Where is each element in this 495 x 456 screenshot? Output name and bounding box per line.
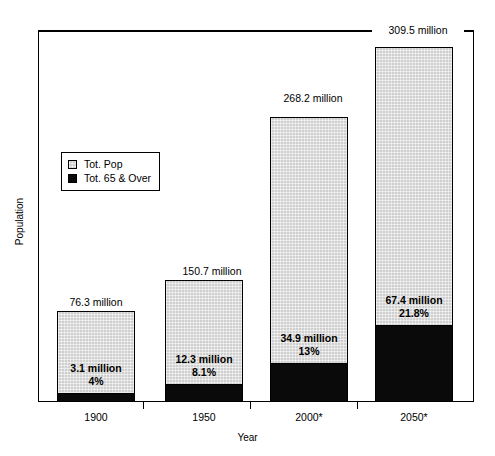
x-axis-label-1950: 1950 [159, 411, 249, 423]
bar-inner-value-2050: 67.4 million [376, 294, 452, 307]
bar-total-2000[interactable]: 34.9 million 13% [270, 117, 348, 402]
bar-inner-value-1950: 12.3 million [166, 353, 242, 366]
bar-inner-label-2000: 34.9 million 13% [271, 332, 347, 358]
bar-inner-percent-2000: 13% [271, 345, 347, 358]
bar-group-1950: 12.3 million 8.1% [165, 280, 243, 402]
bar-total-2050[interactable]: 67.4 million 21.8% [375, 47, 453, 402]
chart-legend: Tot. Pop Tot. 65 & Over [61, 152, 160, 191]
bar-group-2000: 34.9 million 13% [270, 117, 348, 402]
bar-inner-value-1900: 3.1 million [58, 362, 134, 375]
top-label-connector-right [464, 30, 474, 32]
y-axis-title: Population [14, 177, 25, 267]
x-axis-title: Year [0, 432, 495, 443]
bar-inner-percent-1900: 4% [58, 375, 134, 388]
bar-inner-value-2000: 34.9 million [271, 332, 347, 345]
top-label-connector-left [38, 30, 372, 32]
legend-label-tot-pop: Tot. Pop [84, 158, 123, 170]
population-stacked-bar-chart: 309.5 million 76.3 million 3.1 million 4… [0, 0, 495, 456]
bar-group-2050: 67.4 million 21.8% [375, 47, 453, 402]
legend-item-tot-65-over[interactable]: Tot. 65 & Over [68, 171, 151, 185]
bar-total-label-2000: 268.2 million [243, 92, 383, 104]
legend-item-tot-pop[interactable]: Tot. Pop [68, 157, 151, 171]
legend-swatch-black-icon [68, 174, 77, 183]
bar-inner-label-2050: 67.4 million 21.8% [376, 294, 452, 320]
bar-segment-65over-2000[interactable] [271, 363, 347, 401]
bar-segment-65over-1900[interactable] [58, 393, 134, 401]
bar-inner-percent-2050: 21.8% [376, 307, 452, 320]
bar-segment-65over-1950[interactable] [166, 384, 242, 401]
x-axis-tick-1 [143, 402, 144, 409]
bar-total-label-2050: 309.5 million [372, 23, 464, 38]
legend-swatch-gray-icon [68, 160, 77, 169]
x-axis-label-2050: 2050* [369, 411, 459, 423]
bar-total-1950[interactable]: 12.3 million 8.1% [165, 280, 243, 402]
bar-total-label-1950: 150.7 million [142, 265, 282, 277]
bar-inner-percent-1950: 8.1% [166, 366, 242, 379]
bar-inner-label-1950: 12.3 million 8.1% [166, 353, 242, 379]
x-axis-tick-3 [357, 402, 358, 409]
x-axis-tick-2 [250, 402, 251, 409]
legend-label-tot-65-over: Tot. 65 & Over [84, 172, 151, 184]
bar-total-label-1900: 76.3 million [26, 296, 166, 308]
bar-group-1900: 3.1 million 4% [57, 311, 135, 402]
bar-segment-65over-2050[interactable] [376, 325, 452, 401]
bar-total-1900[interactable]: 3.1 million 4% [57, 311, 135, 402]
x-axis-label-1900: 1900 [51, 411, 141, 423]
x-axis-label-2000: 2000* [264, 411, 354, 423]
bar-inner-label-1900: 3.1 million 4% [58, 362, 134, 388]
